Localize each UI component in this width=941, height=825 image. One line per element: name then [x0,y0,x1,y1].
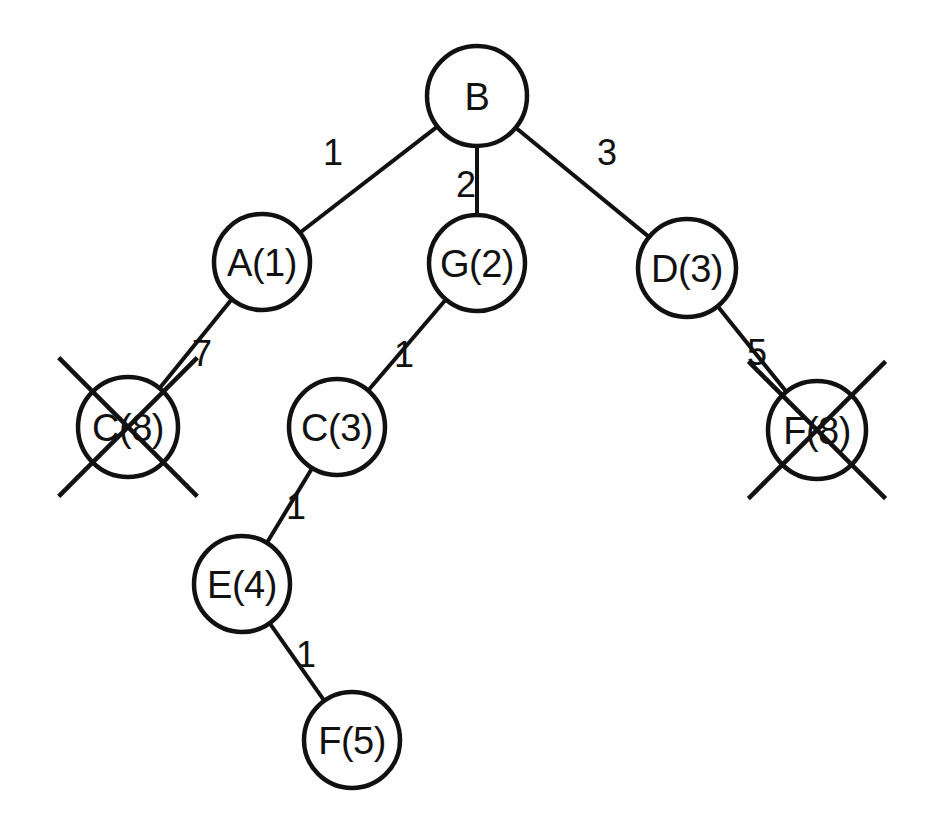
node-B[interactable]: B [427,46,527,146]
node-label: G(2) [440,243,514,285]
edge-weight-B-G2: 2 [456,164,476,205]
node-C3[interactable]: C(3) [289,379,385,475]
node-label: A(1) [227,242,297,284]
node-A1[interactable]: A(1) [214,214,310,310]
node-D3[interactable]: D(3) [638,219,736,317]
edge-weight-D3-F8: 5 [747,332,767,373]
node-F5[interactable]: F(5) [304,692,400,788]
node-G2[interactable]: G(2) [429,215,525,311]
node-label: E(4) [207,564,277,606]
edge-B-to-D3 [515,127,650,238]
node-label: F(5) [318,720,386,762]
edge-weight-E4-F5: 1 [296,634,316,675]
node-label: C(3) [301,407,373,449]
search-tree-graphic: BA(1)G(2)D(3)C(8)C(3)F(8)E(4)F(5) 123715… [0,0,941,825]
edge-weight-G2-C3: 1 [394,334,414,375]
edge-weight-C3-E4: 1 [286,486,306,527]
node-E4[interactable]: E(4) [194,536,290,632]
pruned-markers-layer [59,358,886,499]
nodes-layer: BA(1)G(2)D(3)C(8)C(3)F(8)E(4)F(5) [78,46,866,788]
node-label: B [465,76,490,118]
edge-weight-B-A1: 1 [323,132,343,173]
node-label: D(3) [651,248,723,290]
edge-B-to-A1 [299,126,438,233]
edge-weight-B-D3: 3 [597,132,617,173]
diagram-canvas: BA(1)G(2)D(3)C(8)C(3)F(8)E(4)F(5) 123715… [0,0,941,825]
edge-weight-A1-C8: 7 [192,333,212,374]
